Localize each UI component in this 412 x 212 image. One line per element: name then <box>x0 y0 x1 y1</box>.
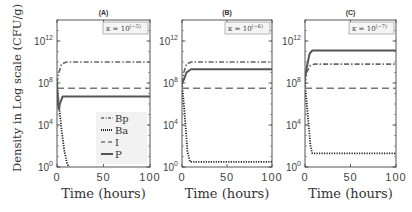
legend-label-bp: Bp <box>115 113 129 124</box>
y-tick-label: 100 <box>163 160 178 173</box>
legend-label-i: I <box>115 137 119 148</box>
y-tick-label: 108 <box>38 76 53 89</box>
panel-title: (B) <box>222 9 232 17</box>
plot-area <box>182 20 272 167</box>
y-tick-label: 108 <box>286 76 301 89</box>
plot-area <box>305 20 396 167</box>
x-axis-label: Time (hours) <box>185 186 270 201</box>
x-tick-label: 100 <box>261 171 282 183</box>
x-tick-label: 100 <box>385 171 406 183</box>
x-tick-label: 50 <box>96 171 110 183</box>
legend-label-ba: Ba <box>115 125 128 136</box>
x-axis-label: Time (hours) <box>308 186 393 201</box>
x-tick-label: 0 <box>301 171 308 183</box>
x-tick-label: 0 <box>53 171 60 183</box>
chart-panel-b: 1001041081012050100Time (hours)(B)κ = 10… <box>159 9 283 201</box>
x-tick-label: 0 <box>178 171 185 183</box>
y-tick-label: 1012 <box>282 34 301 47</box>
x-tick-label: 50 <box>343 171 357 183</box>
x-tick-label: 100 <box>139 171 160 183</box>
panel-title: (C) <box>346 9 356 17</box>
y-tick-label: 104 <box>163 118 178 131</box>
x-axis-label: Time (hours) <box>61 186 146 201</box>
y-tick-label: 1012 <box>34 34 53 47</box>
figure-canvas: 1001041081012050100Time (hours)(A)κ = 10… <box>0 0 412 212</box>
panel-title: (A) <box>99 9 109 17</box>
x-tick-label: 50 <box>220 171 234 183</box>
chart-panel-c: 1001041081012050100Time (hours)(C)κ = 10… <box>282 9 407 201</box>
y-tick-label: 104 <box>38 118 53 131</box>
chart-panel-a: 1001041081012050100Time (hours)(A)κ = 10… <box>34 9 161 201</box>
y-tick-label: 100 <box>38 160 53 173</box>
legend-label-p: P <box>115 149 122 160</box>
y-tick-label: 1012 <box>159 34 178 47</box>
y-tick-label: 104 <box>286 118 301 131</box>
y-tick-label: 108 <box>163 76 178 89</box>
y-tick-label: 100 <box>286 160 301 173</box>
